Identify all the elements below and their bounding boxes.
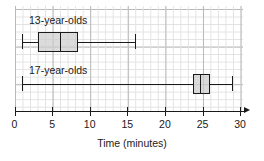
whisker-right-17 [209,84,232,85]
x-tick-5 [52,107,53,116]
x-tick-label-25: 25 [197,118,209,130]
x-tick-label-0: 0 [12,118,18,130]
x-tick-30 [240,107,241,116]
whisker-cap-max-17 [232,76,233,91]
series-label-17-year-olds: 17-year-olds [29,64,87,76]
x-tick-label-20: 20 [159,118,171,130]
boxplot-figure: 13-year-olds 17-year-olds [0,0,264,161]
x-tick-0 [15,107,16,116]
x-tick-label-10: 10 [84,118,96,130]
x-tick-label-15: 15 [121,118,133,130]
x-tick-25 [203,107,204,116]
box-17 [193,74,210,94]
whisker-left-17 [22,84,193,85]
x-axis-label: Time (minutes) [0,137,264,149]
x-axis-line [15,111,246,112]
x-axis-arrow-icon [244,107,250,113]
x-tick-20 [165,107,166,116]
x-tick-10 [90,107,91,116]
whisker-cap-min-17 [22,76,23,91]
x-tick-label-30: 30 [234,118,246,130]
median-line-17 [200,74,201,94]
x-tick-label-5: 5 [49,118,55,130]
x-tick-15 [127,107,128,116]
